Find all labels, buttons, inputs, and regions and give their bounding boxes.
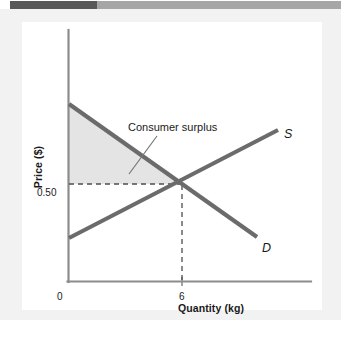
supply-demand-chart xyxy=(0,9,341,320)
top-header-bar xyxy=(0,0,341,9)
y-axis-tick-label-price: 0.50 xyxy=(37,187,56,198)
header-bar-light-segment xyxy=(97,1,341,9)
header-bar-dark-segment xyxy=(10,1,97,9)
figure-panel: Price ($) Quantity (kg) 0.50 0 6 S D Con… xyxy=(0,9,341,320)
x-axis-tick-label-quantity: 6 xyxy=(179,291,185,302)
x-axis-title: Quantity (kg) xyxy=(178,302,244,314)
supply-curve-label: S xyxy=(284,127,292,141)
x-axis-tick-label-origin: 0 xyxy=(57,291,63,302)
screenshot-root: Price ($) Quantity (kg) 0.50 0 6 S D Con… xyxy=(0,0,341,338)
consumer-surplus-annotation-label: Consumer surplus xyxy=(128,121,217,133)
demand-curve-label: D xyxy=(262,241,271,255)
